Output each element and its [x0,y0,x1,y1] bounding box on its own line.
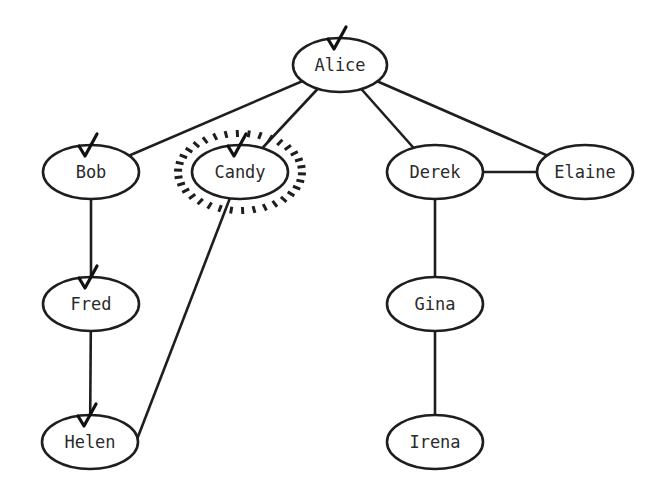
nodes-layer: AliceBobCandyDerekElaineFredGinaHelenIre… [42,27,633,469]
node-gina[interactable]: Gina [387,277,483,331]
node-label: Candy [214,162,265,182]
node-label: Derek [409,162,460,182]
node-bob[interactable]: Bob [43,134,139,199]
node-label: Irena [409,432,460,452]
graph-diagram: AliceBobCandyDerekElaineFredGinaHelenIre… [0,0,664,496]
node-label: Elaine [554,162,615,182]
node-label: Bob [76,162,107,182]
node-irena[interactable]: Irena [387,415,483,469]
node-derek[interactable]: Derek [387,145,483,199]
node-elaine[interactable]: Elaine [537,145,633,199]
node-helen[interactable]: Helen [42,404,138,469]
node-label: Alice [314,55,365,75]
node-alice[interactable]: Alice [293,27,387,92]
node-label: Fred [71,294,112,314]
node-fred[interactable]: Fred [43,266,139,331]
node-label: Gina [415,294,456,314]
edges-layer [90,65,585,442]
node-label: Helen [64,432,115,452]
edge-candy-helen [136,172,240,442]
